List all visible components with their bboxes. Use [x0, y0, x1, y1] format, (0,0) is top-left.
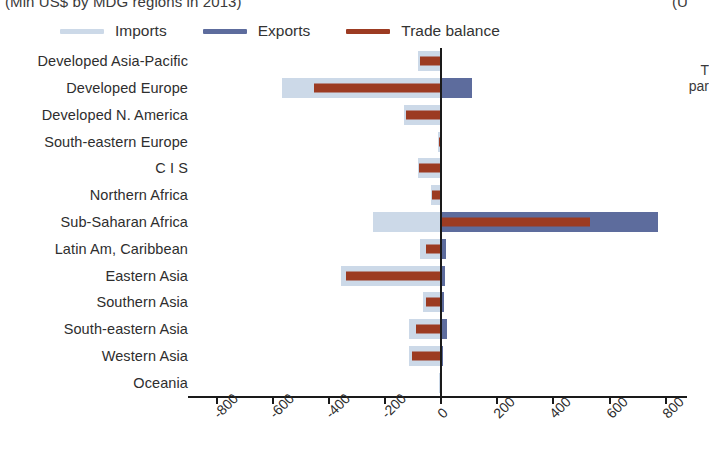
panel-title-clipped: (Mln US$ by MDG regions in 2013)	[5, 0, 242, 10]
y-axis-label: Oceania	[133, 375, 188, 391]
y-axis-label: C I S	[155, 160, 188, 176]
legend-swatch-icon	[60, 29, 104, 34]
bar-group	[188, 289, 685, 316]
y-axis-label: Developed Asia-Pacific	[38, 53, 189, 69]
legend-item-trade-balance: Trade balance	[346, 22, 500, 40]
x-axis-tick-label: 400	[546, 393, 574, 421]
bar-group	[188, 369, 685, 396]
bar-group	[188, 102, 685, 129]
y-axis-label: Eastern Asia	[105, 268, 188, 284]
y-axis-label: Sub-Saharan Africa	[60, 214, 188, 230]
y-axis-label: Western Asia	[102, 348, 188, 364]
chart-row: Western Asia	[0, 342, 707, 369]
legend-item-exports: Exports	[203, 22, 311, 40]
legend-swatch-icon	[346, 29, 390, 34]
side-note-clipped: T par	[663, 62, 709, 94]
chart-row: South-eastern Europe	[0, 128, 707, 155]
bar-trade-balance	[419, 164, 440, 173]
x-axis-tick-label: 600	[603, 393, 631, 421]
y-axis-label: Latin Am, Caribbean	[55, 241, 188, 257]
legend-label: Imports	[115, 22, 167, 40]
bar-trade-balance	[440, 217, 590, 226]
x-axis-tick-label: 200	[490, 393, 518, 421]
bar-trade-balance	[420, 57, 441, 66]
bar-group	[188, 182, 685, 209]
bar-group	[188, 155, 685, 182]
bar-trade-balance	[346, 271, 440, 280]
bar-exports	[440, 78, 472, 98]
chart-row: Northern Africa	[0, 182, 707, 209]
y-axis-label: Southern Asia	[96, 294, 188, 310]
bar-group	[188, 48, 685, 75]
zero-axis-line	[440, 48, 442, 396]
chart-row: Developed N. America	[0, 102, 707, 129]
y-axis-label: Northern Africa	[90, 187, 188, 203]
chart-row: C I S	[0, 155, 707, 182]
chart-legend: ImportsExportsTrade balance	[0, 19, 707, 43]
chart-row: Developed Asia-Pacific	[0, 48, 707, 75]
chart-plot-area: Developed Asia-PacificDeveloped EuropeDe…	[0, 48, 707, 396]
y-axis-label: South-eastern Asia	[64, 321, 188, 337]
chart-row: Eastern Asia	[0, 262, 707, 289]
bar-group	[188, 235, 685, 262]
bar-trade-balance	[426, 298, 440, 307]
legend-item-imports: Imports	[60, 22, 167, 40]
bar-group	[188, 75, 685, 102]
right-panel-title-clipped: (U	[672, 0, 707, 10]
side-note-line-1: T	[663, 62, 709, 78]
bar-trade-balance	[314, 84, 441, 93]
bar-trade-balance	[412, 351, 440, 360]
y-axis-label: South-eastern Europe	[44, 134, 188, 150]
legend-label: Exports	[258, 22, 311, 40]
y-axis-label: Developed N. America	[42, 107, 188, 123]
bar-imports	[373, 212, 440, 232]
bar-trade-balance	[426, 244, 440, 253]
chart-row: Southern Asia	[0, 289, 707, 316]
chart-row: Sub-Saharan Africa	[0, 209, 707, 236]
side-note-line-2: par	[663, 78, 709, 94]
legend-swatch-icon	[203, 29, 247, 34]
bar-trade-balance	[406, 110, 441, 119]
y-axis-label: Developed Europe	[66, 80, 188, 96]
bar-group	[188, 262, 685, 289]
x-axis-tick-label: 0	[434, 404, 451, 421]
chart-row: South-eastern Asia	[0, 316, 707, 343]
bar-trade-balance	[416, 325, 440, 334]
bar-group	[188, 128, 685, 155]
legend-label: Trade balance	[401, 22, 500, 40]
chart-row: Oceania	[0, 369, 707, 396]
x-axis-tick	[440, 396, 442, 404]
bar-group	[188, 209, 685, 236]
bar-group	[188, 316, 685, 343]
bar-group	[188, 342, 685, 369]
chart-row: Developed Europe	[0, 75, 707, 102]
bar-trade-balance	[432, 191, 440, 200]
x-axis-tick-label: 800	[659, 393, 687, 421]
chart-row: Latin Am, Caribbean	[0, 235, 707, 262]
x-axis: -800-600-400-2000200400600800	[188, 396, 687, 398]
